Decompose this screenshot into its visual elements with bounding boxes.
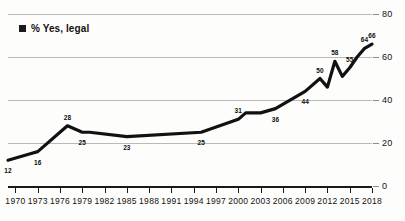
legend-swatch-icon — [19, 25, 26, 32]
x-tick-1973 — [38, 188, 39, 193]
x-axis-label-2015: 2015 — [340, 196, 360, 206]
x-tick-1988 — [149, 188, 150, 193]
y-tick-0 — [373, 186, 379, 187]
data-label-2015: 55 — [346, 55, 353, 62]
x-tick-2009 — [305, 188, 306, 193]
x-axis-label-1991: 1991 — [161, 196, 181, 206]
x-axis-label-1994: 1994 — [184, 196, 204, 206]
gridline-80 — [8, 14, 372, 15]
x-axis-label-1985: 1985 — [117, 196, 137, 206]
data-label-2000: 31 — [235, 107, 242, 114]
x-axis-label-2018: 2018 — [362, 196, 382, 206]
x-axis-label-1997: 1997 — [206, 196, 226, 206]
y-axis-label-20: 20 — [382, 139, 392, 148]
data-label-1969: 12 — [4, 167, 11, 174]
y-tick-20 — [373, 143, 379, 144]
x-axis-label-2003: 2003 — [251, 196, 271, 206]
data-label-1973: 16 — [34, 158, 41, 165]
x-tick-2012 — [327, 188, 328, 193]
x-axis-label-1970: 1970 — [5, 196, 25, 206]
data-label-2005: 36 — [272, 115, 279, 122]
x-tick-1976 — [60, 188, 61, 193]
x-axis-label-2000: 2000 — [228, 196, 248, 206]
x-axis-label-2006: 2006 — [273, 196, 293, 206]
x-axis-label-1979: 1979 — [72, 196, 92, 206]
data-label-2011: 50 — [316, 66, 323, 73]
x-axis-label-1988: 1988 — [139, 196, 159, 206]
gridline-20 — [8, 143, 372, 144]
data-label-1977: 28 — [64, 113, 71, 120]
y-axis-label-60: 60 — [382, 53, 392, 62]
x-tick-1970 — [15, 188, 16, 193]
x-tick-2000 — [238, 188, 239, 193]
y-axis-label-0: 0 — [382, 182, 387, 191]
y-tick-40 — [373, 100, 379, 101]
y-axis-label-80: 80 — [382, 10, 392, 19]
data-label-2018: 66 — [368, 32, 375, 39]
plot-area — [8, 14, 372, 186]
x-axis-label-2012: 2012 — [317, 196, 337, 206]
data-label-1979: 25 — [79, 139, 86, 146]
x-tick-2006 — [283, 188, 284, 193]
x-tick-2018 — [372, 188, 373, 193]
data-label-1985: 23 — [123, 143, 130, 150]
legend-label: % Yes, legal — [31, 23, 89, 34]
y-axis-label-40: 40 — [382, 96, 392, 105]
x-tick-1997 — [216, 188, 217, 193]
legend: % Yes, legal — [19, 23, 89, 34]
gridline-60 — [8, 57, 372, 58]
x-tick-2003 — [261, 188, 262, 193]
x-axis-label-1976: 1976 — [50, 196, 70, 206]
y-tick-80 — [373, 14, 379, 15]
x-axis-label-2009: 2009 — [295, 196, 315, 206]
chart-container: 020406080 197019731976197919821985198819… — [0, 0, 405, 221]
data-label-2017: 64 — [361, 36, 368, 43]
y-tick-60 — [373, 57, 379, 58]
x-axis-label-1973: 1973 — [28, 196, 48, 206]
x-tick-1982 — [105, 188, 106, 193]
x-tick-2015 — [350, 188, 351, 193]
data-label-2013: 58 — [331, 49, 338, 56]
x-tick-1979 — [82, 188, 83, 193]
x-tick-1985 — [127, 188, 128, 193]
x-tick-1994 — [194, 188, 195, 193]
x-axis-line — [8, 186, 372, 188]
data-label-2009: 44 — [301, 98, 308, 105]
x-tick-1991 — [171, 188, 172, 193]
gridline-40 — [8, 100, 372, 101]
x-axis-label-1982: 1982 — [95, 196, 115, 206]
data-label-1995: 25 — [197, 139, 204, 146]
